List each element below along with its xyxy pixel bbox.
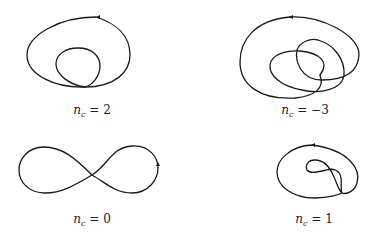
curve-nc-0: [19, 146, 160, 193]
arrow-icon: [96, 15, 100, 19]
label-nc-0: nc = 0: [73, 212, 111, 228]
arrow-icon: [289, 15, 293, 19]
arrow-icon: [311, 143, 315, 147]
label-nc-minus3: nc = −3: [281, 103, 329, 119]
curves-diagram: [0, 0, 380, 239]
curve-nc-2: [27, 15, 130, 87]
label-nc-1: nc = 1: [295, 212, 333, 228]
arrow-icon: [156, 162, 160, 166]
label-nc-2: nc = 2: [73, 103, 111, 119]
curve-nc-1: [277, 143, 358, 198]
curve-nc-minus3: [240, 15, 359, 98]
